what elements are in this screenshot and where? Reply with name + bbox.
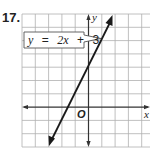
- equation-coef: 2x: [57, 33, 69, 47]
- x-axis-left-arrow-icon: [22, 105, 28, 109]
- line-bottom-arrow-icon: [49, 136, 56, 147]
- equation-const: 3: [93, 33, 100, 47]
- coordinate-plane: y x O y = 2x + 3: [0, 0, 154, 153]
- equation-plus: +: [77, 33, 84, 47]
- y-axis-label: y: [91, 11, 97, 23]
- origin-label: O: [77, 108, 86, 120]
- equation-y: y: [27, 33, 34, 47]
- y-axis-down-arrow-icon: [86, 141, 90, 147]
- y-axis-up-arrow-icon: [86, 14, 90, 20]
- equation-callout: y = 2x + 3: [24, 30, 101, 48]
- equation-equals: =: [42, 33, 49, 47]
- x-axis-label: x: [143, 108, 149, 120]
- line-top-arrow-icon: [106, 15, 113, 26]
- x-axis: [22, 105, 150, 109]
